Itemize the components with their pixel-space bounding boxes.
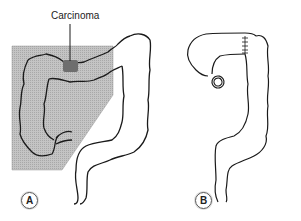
- carcinoma-label: Carcinoma: [51, 10, 99, 21]
- panel-label-a: A: [21, 192, 38, 209]
- colon-b: [187, 33, 268, 202]
- colon-diagram: [0, 0, 301, 221]
- carcinoma-mass: [63, 60, 78, 72]
- panel-label-b: B: [195, 192, 212, 209]
- resection-region: [12, 46, 113, 170]
- anastomosis-sutures: [242, 36, 248, 54]
